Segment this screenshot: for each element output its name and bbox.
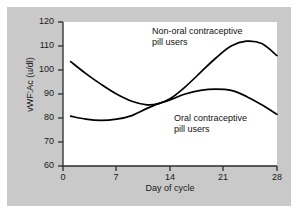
x-tick-label: 7 (106, 173, 126, 182)
x-tick-label: 28 (267, 173, 287, 182)
series-annotation-non-oral: Non-oral contraceptive pill users (152, 26, 243, 48)
y-tick-label: 60 (28, 161, 54, 170)
chart-vector-layer (0, 0, 298, 213)
x-tick-label: 14 (160, 173, 180, 182)
x-axis-ticks (63, 166, 277, 171)
y-axis-ticks (58, 22, 63, 166)
series-annotation-oral: Oral contraceptive pill users (174, 113, 247, 135)
y-tick-label: 120 (28, 17, 54, 26)
x-tick-label: 0 (53, 173, 73, 182)
y-axis-label: vWF:Ac (u/dl) (26, 30, 35, 140)
figure-canvas: 120 110 100 90 80 70 60 0 7 14 21 28 vWF… (0, 0, 298, 213)
x-axis-label: Day of cycle (63, 184, 277, 193)
x-tick-label: 21 (213, 173, 233, 182)
